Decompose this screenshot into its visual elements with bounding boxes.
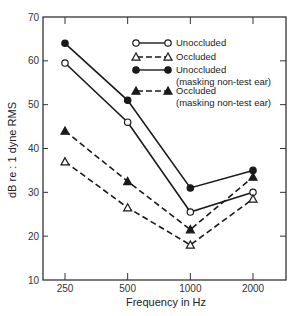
legend-item-unoccluded: Unoccluded xyxy=(176,37,226,48)
series-line xyxy=(65,131,253,230)
series-occluded xyxy=(61,158,257,248)
legend-item-occluded-masking: Occluded (masking non-test ear) xyxy=(176,85,271,108)
y-tick-label: 70 xyxy=(28,12,40,23)
filled-circle-marker xyxy=(165,67,171,73)
legend-label: Occluded xyxy=(176,85,216,96)
filled-triangle-marker xyxy=(61,127,69,134)
open-triangle-marker xyxy=(61,158,69,165)
legend-item-occluded: Occluded xyxy=(176,51,216,62)
series-layer xyxy=(61,40,257,248)
legend-sublabel: (masking non-test ear) xyxy=(176,97,271,108)
y-tick-label: 60 xyxy=(28,55,40,66)
x-tick-label: 250 xyxy=(57,283,74,294)
x-axis-title: Frequency in Hz xyxy=(126,296,206,308)
open-triangle-marker xyxy=(249,195,257,202)
open-triangle-marker xyxy=(124,204,132,211)
x-tick-label: 500 xyxy=(119,283,136,294)
open-circle-marker xyxy=(124,119,130,125)
open-circle-marker xyxy=(62,60,68,66)
open-circle-marker xyxy=(187,209,193,215)
y-tick-label: 30 xyxy=(28,187,40,198)
x-axis: 25050010002000 xyxy=(57,17,265,294)
y-axis: 10203040506070 xyxy=(28,12,286,286)
x-tick-label: 2000 xyxy=(242,283,265,294)
chart: 10203040506070 25050010002000 dB re : 1 … xyxy=(0,0,304,316)
legend-symbols xyxy=(132,40,172,94)
legend-label: Unoccluded xyxy=(176,64,226,75)
y-axis-title: dB re : 1 dyne RMS xyxy=(6,102,18,198)
y-tick-label: 40 xyxy=(28,143,40,154)
legend-label: Occluded xyxy=(176,51,216,62)
y-tick-label: 50 xyxy=(28,99,40,110)
open-circle-marker xyxy=(165,40,171,46)
legend-item-unoccluded-masking: Unoccluded (masking non-test ear) xyxy=(176,64,271,87)
filled-circle-marker xyxy=(62,40,68,46)
series-line xyxy=(65,162,253,245)
legend: Unoccluded Occluded Unoccluded (masking … xyxy=(132,37,271,108)
filled-circle-marker xyxy=(187,185,193,191)
filled-circle-marker xyxy=(133,67,139,73)
y-tick-label: 10 xyxy=(28,275,40,286)
open-circle-marker xyxy=(133,40,139,46)
y-tick-label: 20 xyxy=(28,231,40,242)
legend-label: Unoccluded xyxy=(176,37,226,48)
filled-triangle-marker xyxy=(249,173,257,180)
filled-circle-marker xyxy=(124,97,130,103)
x-tick-label: 1000 xyxy=(179,283,202,294)
